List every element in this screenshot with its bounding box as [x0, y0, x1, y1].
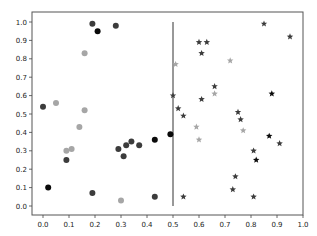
star-marker	[240, 127, 246, 133]
circle-marker	[69, 146, 75, 152]
x-tick-label: 0.3	[115, 221, 126, 229]
star-marker	[211, 90, 217, 96]
circle-marker	[115, 146, 121, 152]
star-marker	[193, 123, 199, 129]
y-tick-label: 0.6	[16, 92, 28, 100]
y-tick-label: 0.1	[16, 184, 27, 192]
circle-marker	[121, 153, 127, 159]
star-marker	[250, 193, 256, 199]
circle-marker	[53, 100, 59, 106]
star-marker	[237, 116, 243, 122]
x-tick-label: 0.7	[219, 221, 230, 229]
star-marker	[211, 83, 217, 89]
circle-marker	[63, 157, 69, 163]
y-tick-label: 0.5	[16, 111, 27, 119]
x-tick-label: 0.0	[37, 221, 48, 229]
star-marker	[261, 20, 267, 26]
circle-marker	[82, 107, 88, 113]
star-marker	[253, 157, 259, 163]
star-marker	[269, 90, 275, 96]
circle-marker	[45, 185, 51, 191]
circle-marker	[95, 28, 101, 34]
y-tick-label: 1.0	[16, 19, 27, 27]
circle-marker	[40, 104, 46, 110]
circle-marker	[89, 190, 95, 196]
circle-marker	[76, 124, 82, 130]
plot-frame	[32, 12, 303, 215]
star-marker	[266, 133, 272, 139]
y-tick-label: 0.7	[16, 74, 27, 82]
y-tick-label: 0.3	[16, 147, 27, 155]
star-marker	[198, 96, 204, 102]
axes-frame	[32, 12, 303, 215]
circle-marker	[152, 194, 158, 200]
star-marker	[230, 186, 236, 192]
y-tick-label: 0.2	[16, 166, 27, 174]
circle-marker	[118, 197, 124, 203]
x-axis-ticks: 0.00.10.20.30.40.50.60.70.80.91.0	[37, 215, 308, 229]
star-marker	[276, 140, 282, 146]
star-marker	[235, 109, 241, 115]
circle-marker	[123, 142, 129, 148]
circle-marker	[113, 23, 119, 29]
circle-marker	[82, 50, 88, 56]
circle-marker	[136, 142, 142, 148]
circle-marker	[152, 137, 158, 143]
y-tick-label: 0.9	[16, 37, 27, 45]
x-tick-label: 0.4	[141, 221, 153, 229]
x-tick-label: 0.8	[245, 221, 256, 229]
star-marker	[204, 39, 210, 45]
star-marker	[196, 136, 202, 142]
star-marker	[175, 105, 181, 111]
star-marker	[180, 193, 186, 199]
star-marker	[227, 57, 233, 63]
star-marker	[232, 173, 238, 179]
circle-marker	[89, 21, 95, 27]
x-tick-label: 0.2	[89, 221, 100, 229]
y-axis-ticks: 0.00.10.20.30.40.50.60.70.80.91.0	[16, 19, 32, 211]
circle-marker	[63, 148, 69, 154]
x-tick-label: 0.5	[167, 221, 178, 229]
x-tick-label: 0.6	[193, 221, 205, 229]
x-tick-label: 1.0	[297, 221, 308, 229]
star-marker	[196, 39, 202, 45]
star-marker	[250, 147, 256, 153]
star-marker	[287, 33, 293, 39]
scatter-chart: 0.00.10.20.30.40.50.60.70.80.91.0 0.00.1…	[0, 0, 317, 236]
circle-marker	[128, 139, 134, 145]
x-tick-label: 0.1	[63, 221, 74, 229]
x-tick-label: 0.9	[271, 221, 282, 229]
circle-marker	[167, 131, 173, 137]
y-tick-label: 0.8	[16, 55, 27, 63]
star-marker	[180, 112, 186, 118]
star-marker	[198, 50, 204, 56]
y-tick-label: 0.4	[16, 129, 28, 137]
data-points	[40, 20, 293, 203]
y-tick-label: 0.0	[16, 203, 27, 211]
